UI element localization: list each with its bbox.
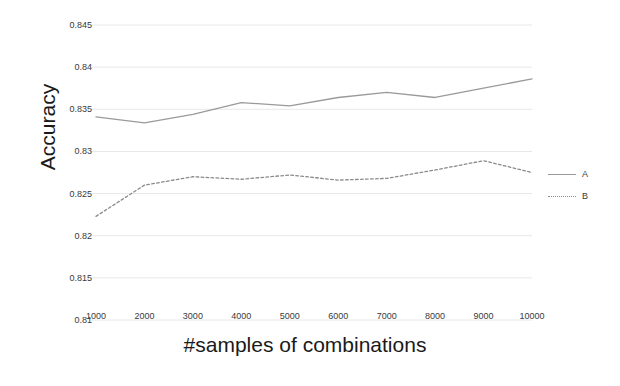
x-tick-label: 4000 — [231, 311, 251, 321]
x-tick-label: 10000 — [519, 311, 544, 321]
y-tick-label: 0.81 — [40, 315, 92, 325]
x-tick-label: 2000 — [134, 311, 154, 321]
series-line-b — [96, 161, 532, 217]
x-tick-label: 1000 — [86, 311, 106, 321]
series-line-a — [96, 79, 532, 123]
x-tick-label: 7000 — [377, 311, 397, 321]
plot-area — [0, 0, 620, 386]
chart-legend: A B — [548, 163, 608, 207]
x-tick-label: 9000 — [474, 311, 494, 321]
y-tick-label: 0.845 — [40, 20, 92, 30]
x-tick-label: 5000 — [280, 311, 300, 321]
y-tick-label: 0.815 — [40, 273, 92, 283]
x-tick-label: 6000 — [328, 311, 348, 321]
x-tick-label: 3000 — [183, 311, 203, 321]
y-axis-title: Accuracy — [36, 47, 60, 207]
legend-label-a: A — [582, 170, 588, 179]
legend-swatch-a-icon — [548, 174, 576, 175]
legend-swatch-b-icon — [548, 196, 576, 197]
y-tick-label: 0.82 — [40, 231, 92, 241]
x-tick-label: 8000 — [425, 311, 445, 321]
legend-item-b: B — [548, 185, 608, 207]
x-axis-title: #samples of combinations — [95, 333, 515, 357]
legend-label-b: B — [582, 192, 588, 201]
chart-figure: 0.810.8150.820.8250.830.8350.840.845 100… — [0, 0, 620, 386]
legend-item-a: A — [548, 163, 608, 185]
